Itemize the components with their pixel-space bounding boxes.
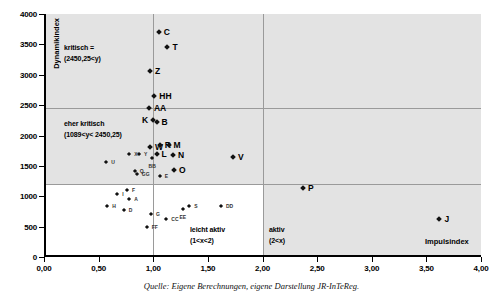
x-tick xyxy=(153,257,154,262)
data-point-label: DD xyxy=(226,203,233,209)
diamond-marker-icon xyxy=(164,217,168,221)
data-point-label: N xyxy=(178,150,184,160)
x-tick-label: 2,00 xyxy=(255,264,270,273)
data-point-label: EE xyxy=(179,214,186,220)
x-tick xyxy=(372,257,373,262)
y-tick xyxy=(39,44,44,45)
data-point-label: FF xyxy=(152,224,158,230)
data-point-label: E xyxy=(165,173,168,179)
y-tick-label: 4000 xyxy=(20,10,37,19)
y-tick-label: 3000 xyxy=(20,70,37,79)
x-tick xyxy=(317,257,318,262)
x-tick-label: 1,50 xyxy=(200,264,215,273)
y-tick-label: 2500 xyxy=(20,101,37,110)
x-tick-label: 4,00 xyxy=(474,264,489,273)
diamond-marker-icon xyxy=(187,204,191,208)
data-point-label: I xyxy=(122,191,123,197)
diamond-marker-icon xyxy=(122,208,126,212)
diamond-marker-icon xyxy=(125,187,129,191)
diamond-marker-icon xyxy=(127,197,131,201)
data-point-label: O xyxy=(179,165,186,175)
annotation-leicht-aktiv-line1: leicht aktiv xyxy=(190,224,225,235)
annotation-aktiv-line1: aktiv xyxy=(269,224,285,235)
y-tick-label: 1000 xyxy=(20,192,37,201)
diamond-marker-icon xyxy=(105,204,109,208)
y-tick-label: 500 xyxy=(24,222,37,231)
data-point-label: CC xyxy=(171,216,178,222)
x-tick xyxy=(99,257,100,262)
x-tick xyxy=(426,257,427,262)
y-tick-label: 0 xyxy=(33,253,37,262)
data-point-label: B xyxy=(162,117,168,127)
data-point-label: J xyxy=(444,214,449,224)
x-tick-label: 3,50 xyxy=(419,264,434,273)
data-point-label: AA xyxy=(154,103,166,113)
x-tick-label: 0,00 xyxy=(37,264,52,273)
y-tick-label: 2000 xyxy=(20,131,37,140)
source-caption: Quelle: Eigene Berechnungen, eigene Dars… xyxy=(0,281,503,291)
data-point-label: S xyxy=(194,203,197,209)
y-tick xyxy=(39,227,44,228)
x-tick-label: 2,50 xyxy=(310,264,325,273)
x-axis-title: Impulsindex xyxy=(425,237,469,246)
y-tick xyxy=(39,75,44,76)
y-tick xyxy=(39,14,44,15)
annotation-aktiv-line2: (2<x) xyxy=(269,235,285,246)
y-tick xyxy=(39,105,44,106)
data-point-label: H xyxy=(112,203,116,209)
data-point-label: F xyxy=(132,187,135,193)
diamond-marker-icon xyxy=(145,225,149,229)
threshold-line-aktiv xyxy=(263,14,264,257)
scatter-chart-figure: 05001000150020002500300035004000 0,000,5… xyxy=(0,0,503,299)
y-axis xyxy=(44,14,46,257)
data-point-label: T xyxy=(172,42,177,52)
data-point-label: K xyxy=(142,115,148,125)
annotation-leicht-aktiv: leicht aktiv (1<x<2) xyxy=(190,224,225,246)
threshold-line-leicht-aktiv xyxy=(153,14,154,257)
plot-area: 05001000150020002500300035004000 0,000,5… xyxy=(44,14,481,257)
data-point-label: BB xyxy=(149,163,156,169)
y-tick xyxy=(39,196,44,197)
x-tick-label: 0,50 xyxy=(91,264,106,273)
x-tick xyxy=(208,257,209,262)
annotation-kritisch: kritisch = (2450,25<y) xyxy=(64,42,101,64)
data-point-label: C xyxy=(164,27,170,37)
annotation-aktiv: aktiv (2<x) xyxy=(269,224,285,246)
annotation-eher-kritisch-line2: (1089<y< 2450,25) xyxy=(64,129,122,140)
data-point-label: GG xyxy=(142,171,150,177)
data-point-label: M xyxy=(174,140,181,150)
data-point-label: U xyxy=(111,159,115,165)
diamond-marker-icon xyxy=(181,207,185,211)
annotation-eher-kritisch-line1: eher kritisch xyxy=(64,118,122,129)
y-axis-title: Dynamikindex xyxy=(52,18,61,69)
data-point-label: L xyxy=(162,149,167,159)
data-point-label: Y xyxy=(144,151,147,157)
y-tick-label: 1500 xyxy=(20,161,37,170)
y-tick xyxy=(39,166,44,167)
annotation-kritisch-line1: kritisch = xyxy=(64,42,101,53)
x-tick xyxy=(481,257,482,262)
data-point-label: HH xyxy=(159,91,171,101)
annotation-eher-kritisch: eher kritisch (1089<y< 2450,25) xyxy=(64,118,122,140)
annotation-leicht-aktiv-line2: (1<x<2) xyxy=(190,235,225,246)
data-point-label: A xyxy=(134,196,138,202)
data-point-label: P xyxy=(308,183,314,193)
annotation-kritisch-line2: (2450,25<y) xyxy=(64,53,101,64)
diamond-marker-icon xyxy=(115,192,119,196)
y-tick-label: 3500 xyxy=(20,40,37,49)
x-tick-label: 3,00 xyxy=(364,264,379,273)
data-point-label: V xyxy=(238,152,244,162)
x-tick xyxy=(44,257,45,262)
x-tick xyxy=(263,257,264,262)
y-tick xyxy=(39,136,44,137)
data-point-label: D xyxy=(129,207,133,213)
diamond-marker-icon xyxy=(219,204,223,208)
data-point-label: G xyxy=(156,211,160,217)
data-point-label: Z xyxy=(155,66,160,76)
x-tick-label: 1,00 xyxy=(146,264,161,273)
